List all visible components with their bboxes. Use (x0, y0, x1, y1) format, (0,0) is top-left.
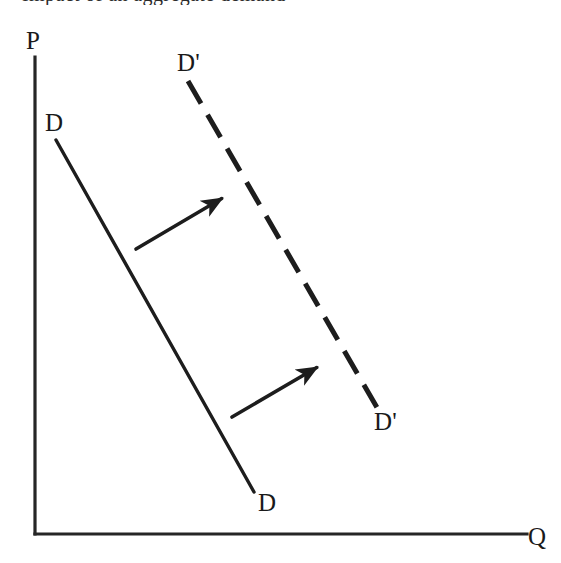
x-axis-label: Q (528, 524, 546, 549)
upper-shift-arrow (136, 199, 222, 249)
demand-curve-label-bottom: D (258, 490, 276, 515)
lower-shift-arrow (232, 368, 317, 417)
shifted-demand-curve-label-bottom: D' (374, 409, 397, 434)
shifted-demand-curve (188, 81, 379, 411)
demand-curve-label-top: D (45, 110, 63, 135)
demand-shift-figure: Impact of an aggregate demand P Q D D D'… (0, 0, 561, 563)
shifted-demand-curve-label-top: D' (177, 50, 200, 75)
y-axis-label: P (26, 28, 40, 53)
original-demand-curve (56, 140, 254, 492)
demand-shift-drawing (0, 0, 561, 563)
